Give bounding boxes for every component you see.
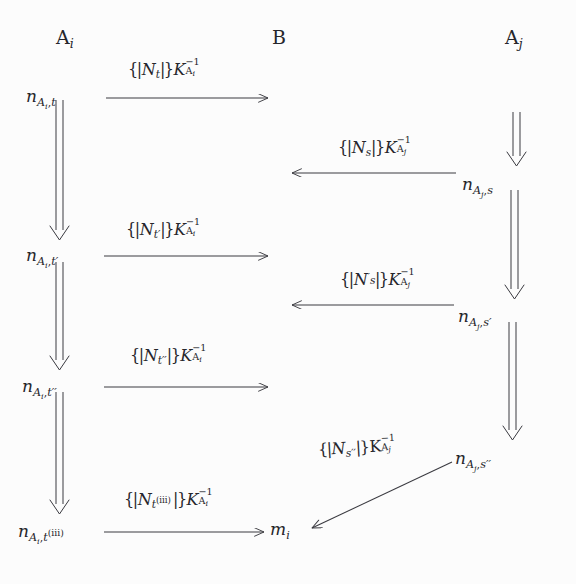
- node-n-aj-s-prime-agent: A: [469, 316, 477, 329]
- node-n-ai-t-iii-base: n: [18, 521, 29, 541]
- column-header-ai-base: A: [56, 26, 70, 48]
- label-msg-5-nonce: N: [144, 346, 158, 365]
- label-msg-3-nonce: N: [140, 220, 154, 239]
- node-n-ai-t-base: n: [26, 86, 37, 106]
- arrow-trans-ai-3: [50, 392, 69, 514]
- node-n-ai-t-prime-base: n: [26, 245, 37, 265]
- label-msg-4-nonce-stack: Ns′: [354, 272, 370, 288]
- label-msg-3: {|Nt′|}K−1Ai: [126, 222, 186, 240]
- diagram-arrows-layer: [0, 0, 576, 584]
- label-msg-5-key-agent: Ai: [192, 352, 202, 364]
- label-msg-6-nonce: N: [331, 438, 346, 458]
- node-n-aj-s-time: s: [487, 184, 493, 197]
- label-msg-4-close-brace: |}: [375, 270, 389, 289]
- node-n-ai-t-iii-agent: A: [29, 531, 37, 544]
- label-msg-4-nonce: N: [354, 270, 368, 289]
- node-n-aj-s-dprime: nAj,s′′: [455, 450, 491, 472]
- node-n-ai-t-dprime-agent: A: [33, 386, 41, 399]
- label-msg-1-nonce: N: [142, 60, 156, 79]
- label-msg-6-key: K−1Aj: [369, 438, 382, 455]
- node-m-i-idx: i: [286, 529, 290, 542]
- node-n-ai-t-prime-agent: A: [37, 255, 45, 268]
- node-n-ai-t-dprime-base: n: [22, 376, 33, 396]
- label-msg-6-key-agent: Aj: [381, 442, 391, 455]
- label-msg-2: {|Ns|}K−1Aj: [338, 140, 397, 158]
- node-m-i: mi: [270, 521, 290, 541]
- node-n-aj-s-dprime-base: n: [455, 448, 466, 468]
- label-msg-4-nonce-sub: s: [370, 275, 375, 286]
- label-msg-5: {|Nt′′|}K−1Ai: [130, 348, 192, 366]
- label-msg-4-key: K−1Aj: [389, 272, 401, 288]
- label-msg-2-nonce: N: [352, 138, 366, 157]
- node-n-ai-t-prime: nAi,t′: [26, 247, 58, 269]
- label-msg-7-key-agent: Ai: [199, 496, 209, 508]
- label-msg-7-key: K−1Ai: [187, 492, 199, 508]
- node-n-ai-t-agent: A: [37, 96, 45, 109]
- node-n-aj-s-dprime-mark: ′′: [486, 458, 491, 471]
- label-msg-5-key: K−1Ai: [180, 348, 192, 364]
- node-n-aj-s-agent: A: [473, 184, 481, 197]
- column-header-aj: Aj: [505, 28, 523, 51]
- label-msg-4-key-agent: Aj: [401, 277, 410, 289]
- node-n-aj-s-base: n: [462, 174, 473, 194]
- label-msg-2-close-brace: |}: [371, 138, 385, 157]
- label-msg-6: {|Ns′′|}K−1Aj: [317, 438, 381, 459]
- label-msg-1: {|Nt|}K−1Ai: [128, 62, 186, 80]
- node-m-i-base: m: [270, 519, 286, 539]
- arrow-msg-6: [312, 462, 452, 528]
- arrow-trans-ai-2: [50, 262, 69, 370]
- node-n-ai-t-iii: nAi,t(iii): [18, 523, 64, 545]
- column-header-b: B: [272, 28, 286, 47]
- label-msg-6-open-brace: {|: [317, 439, 332, 459]
- label-msg-5-open-brace: {|: [130, 346, 144, 365]
- arrow-trans-aj-1: [505, 190, 524, 299]
- node-n-aj-s-prime-base: n: [458, 306, 469, 326]
- label-msg-7-close-brace: |}: [173, 490, 187, 509]
- label-msg-7-nonce-roman: (iii): [156, 496, 171, 506]
- label-msg-7: {|Nt(iii)|}K−1Ai: [124, 492, 199, 510]
- node-n-ai-t-time: t: [51, 96, 56, 109]
- label-msg-5-nonce-prime: ′′: [162, 354, 167, 366]
- label-msg-2-key: K−1Aj: [385, 140, 397, 156]
- label-msg-1-key-agent: Ai: [186, 66, 196, 78]
- node-n-ai-t: nAi,t: [26, 88, 56, 110]
- label-msg-4-open-brace: {|: [340, 270, 354, 289]
- node-n-ai-t-prime-mark: ′: [56, 255, 59, 268]
- column-header-ai: Ai: [56, 28, 74, 51]
- label-msg-3-open-brace: {|: [126, 220, 140, 239]
- label-msg-3-close-brace: |}: [160, 220, 174, 239]
- arrow-trans-ai-1: [50, 100, 69, 240]
- column-header-b-base: B: [272, 26, 286, 48]
- label-msg-3-key: K−1Ai: [174, 222, 186, 238]
- column-header-aj-sub: j: [519, 36, 523, 51]
- label-msg-2-key-agent: Aj: [397, 144, 406, 156]
- node-n-aj-s-prime-mark: ′: [489, 316, 492, 329]
- arrow-trans-aj-0: [507, 112, 526, 166]
- label-msg-7-nonce: N: [138, 490, 152, 509]
- label-msg-1-close-brace: |}: [160, 60, 174, 79]
- node-n-aj-s-prime: nAj,s′: [458, 308, 491, 330]
- label-msg-7-open-brace: {|: [124, 490, 138, 509]
- protocol-sequence-diagram: Ai B Aj nAi,t nAi,t′ nAi,t′′ nAi,t(iii) …: [0, 0, 576, 584]
- column-header-ai-sub: i: [70, 36, 74, 51]
- node-n-aj-s: nAj,s: [462, 176, 493, 198]
- label-msg-6-close-brace: |}: [355, 437, 370, 457]
- arrow-trans-aj-2: [503, 322, 522, 440]
- node-n-ai-t-dprime-mark: ′′: [52, 386, 57, 399]
- column-header-aj-base: A: [505, 26, 519, 48]
- node-n-aj-s-dprime-agent: A: [466, 458, 474, 471]
- label-msg-2-open-brace: {|: [338, 138, 352, 157]
- label-msg-4: {|Ns′|}K−1Aj: [340, 272, 401, 288]
- label-msg-5-close-brace: |}: [167, 346, 181, 365]
- node-n-ai-t-iii-roman: (iii): [48, 527, 64, 538]
- label-msg-3-key-agent: Ai: [186, 226, 196, 238]
- node-n-ai-t-dprime: nAi,t′′: [22, 378, 57, 400]
- label-msg-1-open-brace: {|: [128, 60, 142, 79]
- label-msg-1-key: K−1Ai: [174, 62, 186, 78]
